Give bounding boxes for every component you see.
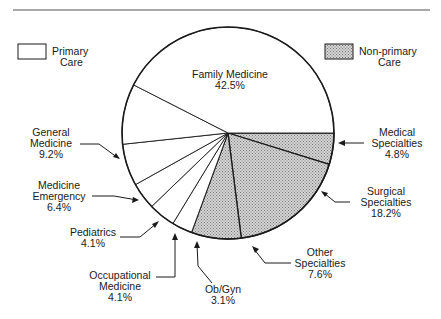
label-medicine-emergency-value: 6.4% xyxy=(47,201,71,213)
leader-arrow-pediatrics xyxy=(120,223,157,237)
label-medical-specialties: Medical Specialties 4.8% xyxy=(338,126,422,160)
label-other-specialties: Other Specialties 7.6% xyxy=(252,246,345,280)
label-pediatrics-value: 4.1% xyxy=(81,237,105,249)
label-general-medicine-value: 9.2% xyxy=(39,148,63,160)
leader-arrow-general-medicine xyxy=(80,144,118,158)
pie-chart: Primary Care Non-primary Care Family Med… xyxy=(0,0,441,319)
leader-arrow-surgical-specialties xyxy=(324,193,350,202)
label-pediatrics: Pediatrics 4.1% xyxy=(70,221,159,249)
label-ob-gyn: Ob/Gyn 3.1% xyxy=(194,241,241,306)
pie-slices xyxy=(122,27,334,239)
label-general-medicine: General Medicine 9.2% xyxy=(30,126,120,160)
label-family-medicine-value: 42.5% xyxy=(215,79,245,91)
label-surgical-specialties: Surgical Specialties 18.2% xyxy=(321,185,411,219)
legend-swatch-primary xyxy=(18,44,46,59)
legend-label-primary-line2: Care xyxy=(60,56,83,68)
label-medicine-emergency: Medicine Emergency 6.4% xyxy=(32,179,139,213)
legend-primary-care: Primary Care xyxy=(18,44,89,68)
label-occupational-medicine-value: 4.1% xyxy=(108,291,132,303)
leader-arrow-other-specialties xyxy=(254,249,291,263)
leader-arrow-medicine-emergency xyxy=(92,196,137,200)
label-medical-specialties-value: 4.8% xyxy=(385,148,409,160)
legend-swatch-non-primary xyxy=(325,44,353,59)
label-other-specialties-value: 7.6% xyxy=(308,268,332,280)
label-ob-gyn-value: 3.1% xyxy=(211,294,235,306)
leader-arrow-ob-gyn xyxy=(197,244,212,283)
leader-arrow-occupational-medicine xyxy=(156,236,175,277)
label-surgical-specialties-value: 18.2% xyxy=(371,207,401,219)
legend-label-non-primary-line2: Care xyxy=(378,56,401,68)
legend-non-primary-care: Non-primary Care xyxy=(325,44,418,68)
